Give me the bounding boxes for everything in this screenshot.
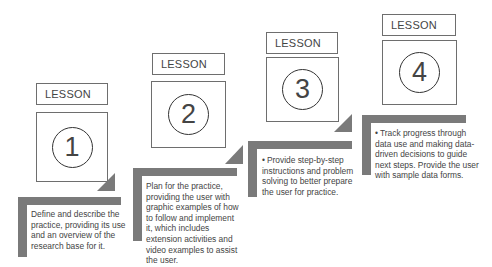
lesson-4-description: Track progress through data use and maki…	[375, 128, 481, 181]
lesson-3-bracket-top	[248, 141, 352, 149]
lesson-1-step-triangle	[97, 173, 115, 191]
lesson-3-step-triangle	[334, 114, 352, 132]
lesson-4-number-circle: 4	[399, 52, 440, 93]
lesson-2-label: LESSON	[152, 53, 225, 75]
lesson-2-number-circle: 2	[168, 94, 209, 135]
lesson-1-description: Define and describe the practice, provid…	[31, 209, 126, 251]
lesson-3-bracket-side	[248, 141, 257, 197]
lesson-4-number-box: 4	[382, 40, 457, 105]
lesson-2-description: Plan for the practice, providing the use…	[146, 181, 241, 266]
lesson-1-bracket-top	[18, 197, 121, 205]
lesson-2-bracket-top	[133, 168, 237, 176]
lesson-1-label: LESSON	[36, 83, 108, 105]
lesson-3-number-box: 3	[266, 57, 339, 122]
lesson-3-description: Provide step-by-step instructions and pr…	[262, 155, 362, 197]
lesson-4-bracket-side	[362, 115, 371, 175]
lesson-2-step-triangle	[225, 145, 243, 164]
lesson-1-bracket-side	[18, 197, 27, 257]
lesson-3-number-circle: 3	[282, 69, 323, 110]
lesson-1-number-circle: 1	[52, 127, 93, 168]
lesson-3-label: LESSON	[266, 32, 338, 54]
lesson-1-number-box: 1	[36, 112, 108, 182]
lesson-4-label: LESSON	[382, 14, 456, 36]
lesson-2-number-box: 2	[151, 81, 226, 148]
lesson-4-bracket-top	[362, 115, 466, 123]
lesson-2-bracket-side	[133, 168, 142, 241]
